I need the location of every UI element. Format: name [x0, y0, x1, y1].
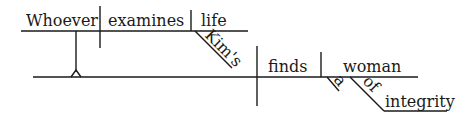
word-whoever: Whoever	[26, 11, 98, 30]
word-a: a	[330, 70, 351, 90]
sentence-diagram: Whoever examines life Kim's finds woman …	[0, 0, 470, 119]
word-examines: examines	[108, 11, 184, 30]
pedestal-fork	[71, 70, 81, 77]
word-integrity: integrity	[385, 92, 455, 111]
word-finds: finds	[268, 57, 307, 76]
word-kims: Kim's	[201, 25, 246, 70]
